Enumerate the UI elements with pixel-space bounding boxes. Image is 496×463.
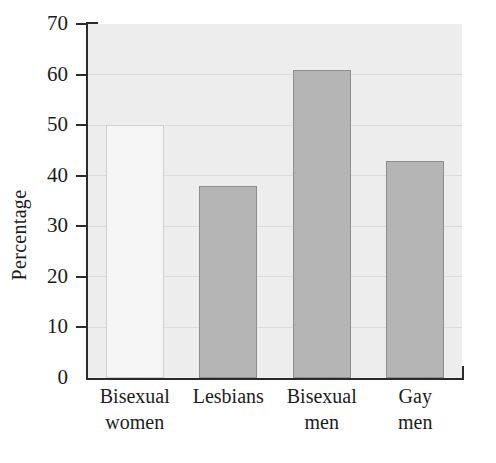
bar-4: [386, 161, 444, 378]
x-axis-label-line1: Bisexual: [287, 385, 357, 407]
x-axis-label-3: Bisexualmen: [275, 384, 369, 435]
axis-right-cap: [462, 366, 464, 380]
y-axis-tick-label: 40: [20, 165, 68, 186]
bar-3: [293, 70, 351, 378]
bar-chart: Percentage 706050403020100 Bisexualwomen…: [0, 0, 496, 463]
x-axis-label-2: Lesbians: [182, 384, 276, 410]
y-axis-line: [86, 22, 88, 380]
x-axis-label-line2: men: [369, 410, 463, 436]
y-axis-tick-label: 70: [20, 13, 68, 34]
axis-top-cap: [86, 22, 98, 24]
x-axis-label-line1: Bisexual: [100, 385, 170, 407]
y-axis-tick-label: 50: [20, 114, 68, 135]
y-axis-tick-label: 0: [20, 367, 68, 388]
x-axis-label-line1: Gay: [399, 385, 432, 407]
gridline: [88, 74, 462, 75]
x-axis-label-line1: Lesbians: [193, 385, 264, 407]
y-axis-tick-label: 30: [20, 215, 68, 236]
y-axis-tick-label: 10: [20, 316, 68, 337]
bar-2: [199, 186, 257, 378]
x-axis-line: [86, 378, 464, 380]
x-axis-label-4: Gaymen: [369, 384, 463, 435]
y-axis-tick-label: 20: [20, 266, 68, 287]
x-axis-label-line2: men: [275, 410, 369, 436]
y-axis-tick-label: 60: [20, 64, 68, 85]
x-axis-label-line2: women: [88, 410, 182, 436]
bar-1: [106, 125, 164, 378]
x-axis-label-1: Bisexualwomen: [88, 384, 182, 435]
